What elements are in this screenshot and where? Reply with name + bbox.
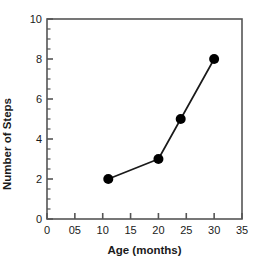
plot-frame [47,19,242,219]
series-markers [103,54,219,184]
x-tick-label: 05 [69,225,81,236]
x-tick-label: 35 [236,225,248,236]
x-tick-label: 10 [97,225,109,236]
axis-frame [47,19,242,219]
data-point [176,114,186,124]
x-axis-major-ticks [47,213,242,219]
data-point [103,174,113,184]
data-point [209,54,219,64]
data-point [153,154,163,164]
x-tick-label: 15 [124,225,136,236]
x-axis-title: Age (months) [47,244,242,256]
x-tick-label: 0 [44,225,50,236]
x-tick-label: 20 [152,225,164,236]
x-tick-label: 25 [180,225,192,236]
line-chart: Number of Steps 0246810 005101520253035 … [0,0,262,269]
x-axis-tick-labels: 005101520253035 [0,225,262,241]
x-tick-label: 30 [208,225,220,236]
